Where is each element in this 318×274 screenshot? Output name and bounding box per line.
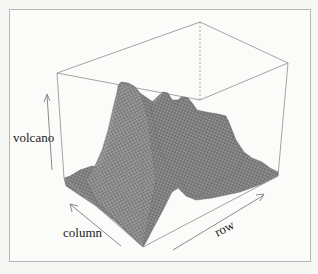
y-axis-label: column [63, 225, 102, 240]
perspective-surface-plot: volcano column row [0, 0, 318, 274]
z-axis-label: volcano [13, 130, 54, 145]
